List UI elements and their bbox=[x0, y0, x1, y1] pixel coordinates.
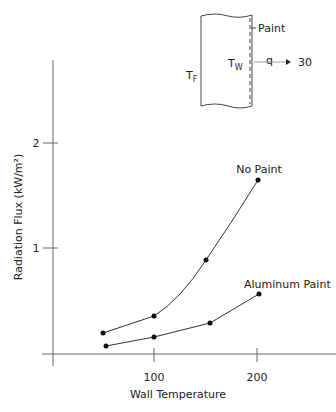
y-tick-label-1: 1 bbox=[33, 242, 40, 255]
aluminum-paint-label: Aluminum Paint bbox=[244, 278, 331, 291]
x-tick-label-200: 200 bbox=[247, 371, 268, 384]
arrow-head-icon bbox=[286, 59, 291, 65]
paint-label: Paint bbox=[258, 22, 286, 35]
fluid-temp-label: TF bbox=[185, 69, 198, 84]
x-tick-label-100: 100 bbox=[144, 371, 165, 384]
no-paint-line bbox=[103, 180, 258, 333]
series-no-paint: No Paint bbox=[101, 163, 283, 336]
data-point bbox=[208, 321, 213, 326]
chart: Paint TW TF q 30 2 1 100 200 Wall Temper… bbox=[0, 0, 336, 412]
data-point bbox=[204, 258, 209, 263]
data-point bbox=[256, 178, 261, 183]
wall-shape bbox=[201, 14, 252, 108]
wall-diagram: Paint TW TF q 30 bbox=[185, 14, 312, 108]
data-point bbox=[104, 344, 109, 349]
y-axis-label: Radiation Flux (kW/m²) bbox=[12, 154, 25, 281]
data-point bbox=[257, 292, 262, 297]
q-label: q bbox=[266, 54, 273, 67]
data-point bbox=[152, 314, 157, 319]
data-point bbox=[152, 335, 157, 340]
aluminum-paint-line bbox=[106, 294, 259, 346]
arrow-value: 30 bbox=[298, 56, 312, 69]
data-point bbox=[101, 331, 106, 336]
no-paint-label: No Paint bbox=[236, 163, 282, 176]
y-tick-label-2: 2 bbox=[33, 137, 40, 150]
x-axis-label: Wall Temperature bbox=[130, 388, 226, 401]
series-aluminum-paint: Aluminum Paint bbox=[104, 278, 332, 349]
axes: 2 1 100 200 Wall Temperature Radiation F… bbox=[12, 60, 336, 401]
